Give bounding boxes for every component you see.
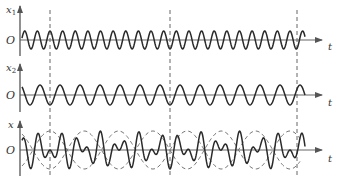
- x2-time-label: t: [328, 97, 333, 108]
- row-x-sum: x O t: [6, 119, 333, 176]
- x-origin-label: O: [6, 144, 15, 157]
- x1-origin-label: O: [6, 34, 15, 47]
- x1-axis-label: x1: [6, 4, 16, 17]
- x2-origin-label: O: [6, 89, 15, 102]
- x1-time-label: t: [328, 41, 333, 52]
- beat-diagram: x1 O t x2 O t x O t: [0, 0, 348, 179]
- x-axis-label: x: [8, 119, 14, 130]
- x2-axis-label: x2: [6, 62, 16, 75]
- x-time-label: t: [328, 153, 333, 164]
